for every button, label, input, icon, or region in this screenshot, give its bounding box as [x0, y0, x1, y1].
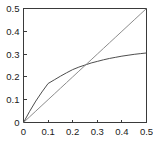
x-tick-label-5: 0.5 [140, 126, 153, 137]
y-tick-label-2: 0.2 [6, 71, 19, 82]
y-tick-label-0: 0 [14, 117, 19, 128]
x-tick-label-1: 0.1 [41, 126, 54, 137]
x-tick-label-2: 0.2 [66, 126, 79, 137]
y-tick-label-5: 0.5 [6, 3, 19, 14]
y-tick-label-3: 0.3 [6, 49, 19, 60]
line-chart: 00.10.20.30.40.5 00.10.20.30.40.5 [0, 0, 153, 144]
x-tick-label-3: 0.3 [91, 126, 104, 137]
y-tick-label-4: 0.4 [6, 26, 19, 37]
x-tick-label-4: 0.4 [115, 126, 128, 137]
x-tick-label-0: 0 [21, 126, 26, 137]
chart-figure: 00.10.20.30.40.5 00.10.20.30.40.5 [0, 0, 153, 144]
y-tick-label-1: 0.1 [6, 94, 19, 105]
